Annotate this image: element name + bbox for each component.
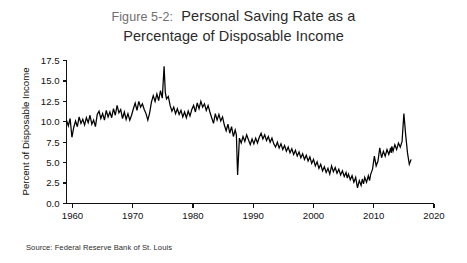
y-tick-label: 10.0 [41, 116, 60, 127]
x-tick-label: 1990 [243, 210, 264, 221]
source-note: Source: Federal Reserve Bank of St. Loui… [26, 243, 172, 252]
x-tick-label: 1970 [122, 210, 143, 221]
y-tick-label: 7.5 [46, 137, 59, 148]
y-tick-label: 15.0 [41, 75, 60, 86]
x-tick-label: 2010 [363, 210, 384, 221]
saving-rate-line [67, 66, 412, 188]
x-tick-label: 1980 [182, 210, 203, 221]
x-tick-label: 1960 [62, 210, 83, 221]
y-tick-label: 5.0 [46, 157, 59, 168]
figure-container: Figure 5-2: Personal Saving Rate as a Pe… [0, 0, 467, 263]
x-axis-group: 1960197019801990200020102020 [62, 204, 445, 221]
x-tick-label: 2020 [423, 210, 444, 221]
y-axis-group: 0.02.55.07.510.012.515.017.5 [41, 55, 67, 209]
x-axis-ticks: 1960197019801990200020102020 [62, 204, 445, 221]
y-tick-label: 2.5 [46, 177, 59, 188]
y-axis-ticks: 0.02.55.07.510.012.515.017.5 [41, 55, 67, 209]
y-tick-label: 17.5 [41, 55, 60, 66]
y-tick-label: 0.0 [46, 198, 59, 209]
x-tick-label: 2000 [303, 210, 324, 221]
y-tick-label: 12.5 [41, 96, 60, 107]
chart-plot-area: 0.02.55.07.510.012.515.017.5 19601970198… [0, 0, 467, 263]
